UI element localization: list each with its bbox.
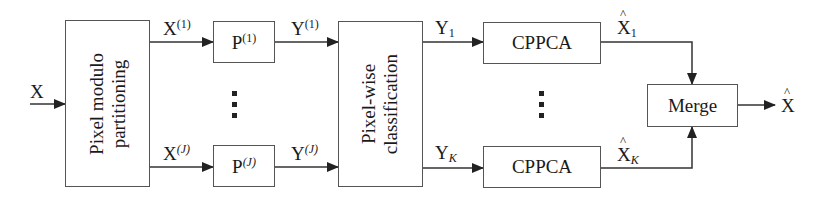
pj-block: P(J) [213,145,275,187]
x1-sup: (1) [177,17,191,31]
merge-block: Merge [647,84,738,127]
p1-block: P(1) [213,21,275,63]
pixel-wise-classification-block: Pixel-wise classification [338,21,423,187]
y-sub1-base: Y [435,17,449,38]
xj-sup: (J) [177,142,190,156]
y-subk-label: YK [435,143,457,164]
yj-sup-sup: (J) [305,142,318,156]
cppca-top-label: CPPCA [512,32,572,54]
pixel-modulo-partitioning-block: Pixel modulo partitioning [65,20,150,187]
cppca-bottom-block: CPPCA [483,146,601,188]
xhat1-sub: 1 [631,26,637,40]
y-subk-base: Y [435,142,449,163]
classify-label-line2: classification [381,54,403,154]
yj-sup-label: Y(J) [291,143,318,163]
xhat1-label: X1 [617,18,637,39]
x1-label: X(1) [163,18,191,38]
xhatk-label: XK [617,145,639,166]
xhatk-sub: K [631,153,639,167]
pj-base: P [232,156,243,177]
xhatk-base: X [617,145,631,164]
cppca-bottom-label: CPPCA [512,156,572,178]
input-x-text: X [30,81,44,102]
y1-sup-sup: (1) [305,17,319,31]
xj-label: X(J) [163,143,190,163]
cppca-top-block: CPPCA [483,22,601,64]
partition-label-line2: partitioning [108,53,130,155]
block-diagram: Pixel modulo partitioning P(1) P(J) Pixe… [0,0,825,204]
yj-sup-base: Y [291,143,305,164]
output-xhat-label: X [781,96,795,115]
y-subk-sub: K [449,151,457,165]
p1-base: P [232,32,243,53]
y1-sup-base: Y [291,18,305,39]
p1-sup: (1) [242,31,256,45]
pj-sup: (J) [243,155,256,169]
classify-label-line1: Pixel-wise [359,54,381,154]
xj-base: X [163,143,177,164]
merge-label: Merge [668,95,717,117]
input-x-label: X [30,82,44,101]
y-sub1-label: Y1 [435,18,455,39]
partition-label-line1: Pixel modulo [86,53,108,155]
x1-base: X [163,18,177,39]
output-xhat-text: X [781,96,795,115]
y1-sup-label: Y(1) [291,18,319,38]
xhat1-base: X [617,18,631,37]
y-sub1-sub: 1 [449,26,455,40]
